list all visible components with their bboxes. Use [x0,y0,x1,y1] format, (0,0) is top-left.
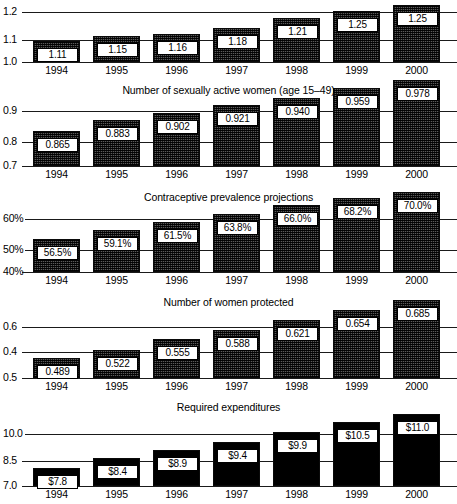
axis-baseline-1 [22,62,457,63]
y-tick-3-2: 50% [3,244,25,255]
bar-value-label-4-1994: 0.489 [37,365,78,379]
bar-5-1995 [93,458,140,486]
bar-5-1997 [213,442,260,486]
x-tick-2-1994: 1994 [27,169,86,180]
chart-title-5: Required expenditures [0,401,457,413]
x-tick-1-2000: 2000 [387,65,446,76]
y-tick-4-2: 0.4 [3,346,19,357]
bar-1-1995 [93,36,140,62]
y-tick-1-1: 1.2 [3,6,19,17]
gridline-5-2 [22,461,457,462]
bar-1-1999 [333,11,380,62]
bar-value-label-4-1998: 0.621 [277,327,318,341]
x-tick-1-1996: 1996 [147,65,206,76]
bar-value-label-1-1997: 1.18 [217,35,258,49]
x-tick-3-2000: 2000 [387,275,446,286]
chart-panel-4: Number of women protected0.60.40.50.4891… [0,0,457,504]
bar-value-label-3-1995: 59.1% [97,237,138,251]
x-tick-4-1994: 1994 [27,381,86,392]
bar-value-label-2-1996: 0.902 [157,120,198,134]
bar-2-1996 [153,113,200,166]
y-tick-1-2: 1.1 [3,34,19,45]
bar-value-label-3-1994: 56.5% [37,246,78,260]
bar-value-label-5-1996: $8.9 [157,457,198,471]
axis-baseline-5 [22,486,457,487]
y-tick-5-3: 7.0 [3,480,19,491]
gridline-5-3 [22,486,457,487]
gridline-5-1 [22,434,457,435]
gridline-1-1 [22,12,457,13]
x-tick-3-1997: 1997 [207,275,266,286]
bar-value-label-1-1996: 1.16 [157,41,198,55]
x-tick-3-1996: 1996 [147,275,206,286]
y-tick-3-3: 40% [3,266,25,277]
bar-value-label-1-1995: 1.15 [97,43,138,57]
x-tick-1-1997: 1997 [207,65,266,76]
x-tick-1-1999: 1999 [327,65,386,76]
y-tick-4-1: 0.6 [3,321,19,332]
gridline-2-2 [22,142,457,143]
bar-3-1999 [333,198,380,272]
y-tick-2-2: 0.8 [3,136,19,147]
x-tick-5-1995: 1995 [87,489,146,500]
x-tick-2-1995: 1995 [87,169,146,180]
bar-2-1995 [93,120,140,166]
x-tick-4-1999: 1999 [327,381,386,392]
gridline-3-3 [22,272,457,273]
bar-3-1998 [273,205,320,272]
bar-value-label-2-1999: 0.959 [337,95,378,109]
bar-2-1997 [213,105,260,166]
bar-value-label-5-1998: $9.9 [277,439,318,453]
bar-4-2000 [393,300,440,378]
x-tick-3-1999: 1999 [327,275,386,286]
x-tick-5-1994: 1994 [27,489,86,500]
x-tick-3-1998: 1998 [267,275,326,286]
y-tick-1-3: 1.0 [3,56,19,67]
gridline-1-3 [22,62,457,63]
bar-value-label-5-1995: $8.4 [97,465,138,479]
x-tick-5-1998: 1998 [267,489,326,500]
bar-3-2000 [393,192,440,272]
bar-value-label-5-2000: $11.0 [397,421,438,435]
chart-panel-3: Contraceptive prevalence projections60%5… [0,0,457,504]
bar-value-label-4-1999: 0.654 [337,317,378,331]
gridline-3-1 [22,219,457,220]
x-tick-2-2000: 2000 [387,169,446,180]
bar-1-1998 [273,18,320,62]
bar-5-1998 [273,432,320,486]
bar-value-label-2-1998: 0.940 [277,105,318,119]
bar-value-label-3-1996: 61.5% [157,229,198,243]
x-tick-5-1997: 1997 [207,489,266,500]
bar-1-1994 [33,41,80,62]
bar-value-label-1-1999: 1.25 [337,18,378,32]
chart-panel-5: Required expenditures10.08.57.0$7.81994$… [0,0,457,504]
y-tick-5-2: 8.5 [3,455,19,466]
bar-3-1996 [153,222,200,272]
bar-value-label-3-1997: 63.8% [217,221,258,235]
x-tick-2-1999: 1999 [327,169,386,180]
x-tick-4-1995: 1995 [87,381,146,392]
chart-panel-1: 1.21.11.01.1119941.1519951.1619961.18199… [0,0,457,504]
bar-3-1997 [213,214,260,272]
bar-4-1994 [33,358,80,378]
chart-title-2: Number of sexually active women (age 15–… [0,84,457,96]
bar-2-2000 [393,80,440,166]
bar-value-label-4-1996: 0.555 [157,346,198,360]
bar-5-1999 [333,422,380,486]
x-tick-1-1998: 1998 [267,65,326,76]
bar-4-1998 [273,320,320,378]
x-tick-1-1995: 1995 [87,65,146,76]
bar-5-1994 [33,468,80,486]
x-tick-3-1994: 1994 [27,275,86,286]
gridline-3-2 [22,250,457,251]
bar-4-1995 [93,350,140,378]
bar-value-label-1-1994: 1.11 [37,48,78,62]
bar-3-1995 [93,230,140,272]
gridline-1-2 [22,40,457,41]
axis-baseline-3 [22,272,457,273]
bar-4-1996 [153,339,200,378]
x-tick-4-1998: 1998 [267,381,326,392]
bar-value-label-4-1997: 0.588 [217,337,258,351]
x-tick-5-1999: 1999 [327,489,386,500]
bar-value-label-4-2000: 0.685 [397,307,438,321]
